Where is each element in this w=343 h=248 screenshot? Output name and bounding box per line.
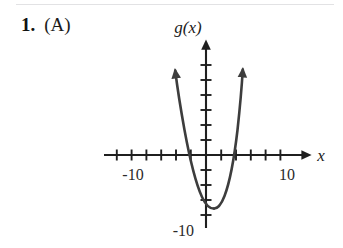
parabola-figure: g(x) x -10 10 -10 — [0, 0, 343, 248]
x-tick-label-positive-ten: 10 — [279, 166, 295, 183]
page-canvas: 1. (A) — [0, 0, 343, 248]
axes-group — [104, 42, 309, 228]
y-tick-label-negative-ten: -10 — [173, 222, 194, 239]
parabola-curve-group — [175, 70, 243, 209]
x-tick-label-negative-ten: -10 — [122, 166, 143, 183]
y-axis-label: g(x) — [174, 18, 202, 37]
x-axis-label: x — [316, 146, 325, 165]
parabola-right-branch — [214, 70, 243, 209]
